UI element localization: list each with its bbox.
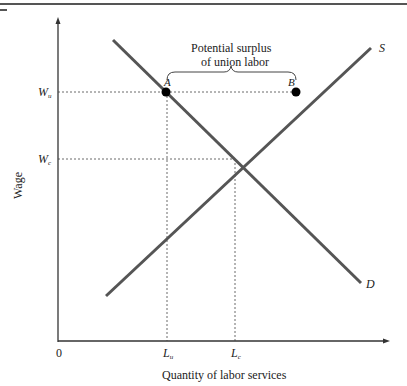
wc-sub: c — [48, 159, 51, 167]
lc-main: L — [231, 346, 238, 360]
demand-curve — [113, 40, 361, 283]
wc-main: W — [38, 152, 48, 166]
origin-label: 0 — [56, 347, 62, 359]
lu-label: Lu — [163, 347, 173, 361]
lc-sub: c — [238, 353, 241, 361]
brace-annotation-line1: Potential surplus — [191, 42, 271, 54]
y-axis-arrow-icon — [56, 17, 61, 24]
supply-label: S — [379, 42, 385, 54]
point-b-label: B — [288, 77, 295, 88]
wu-main: W — [38, 85, 48, 99]
lc-label: Lc — [231, 347, 241, 361]
brace-annotation-line2: of union labor — [201, 56, 269, 68]
x-axis-label: Quantity of labor services — [162, 369, 286, 381]
x-axis-arrow-icon — [383, 339, 390, 344]
wu-label: Wu — [38, 86, 52, 100]
lu-sub: u — [170, 353, 174, 361]
wu-sub: u — [48, 92, 52, 100]
supply-curve — [106, 48, 371, 296]
point-a — [162, 88, 171, 97]
y-axis-label: Wage — [11, 172, 26, 199]
wc-label: Wc — [38, 153, 51, 167]
demand-label: D — [366, 278, 375, 290]
point-b — [292, 88, 301, 97]
point-a-label: A — [164, 77, 171, 88]
lu-main: L — [163, 346, 170, 360]
